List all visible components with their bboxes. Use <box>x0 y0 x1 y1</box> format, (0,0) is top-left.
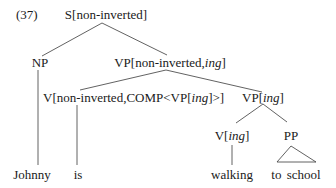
branch-s-np <box>42 23 102 56</box>
node-vp-ing-feature: ing <box>263 90 280 105</box>
branch-vp-vping <box>166 70 262 92</box>
leaf-walking: walking <box>211 168 253 182</box>
node-np-label: NP <box>32 55 49 70</box>
leaf-is: is <box>74 168 83 182</box>
syntax-tree-diagram: (37) S[non-inverted] NP VP[non-inverted,… <box>0 0 336 188</box>
node-vp-ing: VP[ing] <box>242 91 284 105</box>
node-np: NP <box>32 56 49 70</box>
node-vp-ing-label: VP[ <box>242 90 263 105</box>
node-v-aux-label: V[non-inverted,COMP<VP[ <box>43 90 192 105</box>
node-vp-ing-close: ] <box>280 90 284 105</box>
node-v-aux-feature: ing <box>192 90 209 105</box>
node-v-ing-feature: ing <box>228 128 245 143</box>
branch-s-vp <box>102 23 167 55</box>
node-s: S[non-inverted] <box>65 8 147 22</box>
node-v-aux: V[non-inverted,COMP<VP[ing]>] <box>43 91 224 105</box>
node-vp-top-label: VP[non-inverted, <box>114 55 205 70</box>
node-pp-label: PP <box>284 128 298 143</box>
node-v-aux-close: ]>] <box>208 90 224 105</box>
node-vp-top: VP[non-inverted,ing] <box>114 56 226 70</box>
leaf-johnny: Johnny <box>13 168 51 182</box>
leaf-to-school: to school <box>271 168 320 182</box>
node-pp: PP <box>284 129 298 143</box>
branch-vping-ving <box>236 104 263 123</box>
node-v-ing: V[ing] <box>215 129 250 143</box>
node-v-ing-close: ] <box>245 128 249 143</box>
branch-vp-v <box>80 70 166 90</box>
pp-triangle <box>277 146 316 162</box>
example-number: (37) <box>16 8 38 22</box>
node-v-ing-label: V[ <box>215 128 229 143</box>
node-vp-top-feature: ing <box>205 55 222 70</box>
node-s-label: S[non-inverted] <box>65 7 147 22</box>
node-vp-top-close: ] <box>221 55 225 70</box>
branch-vping-pp <box>263 104 287 122</box>
